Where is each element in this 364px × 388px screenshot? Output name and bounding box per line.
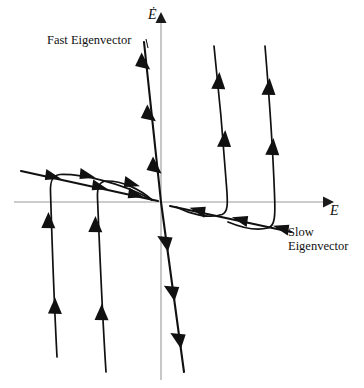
label-leader-lines xyxy=(146,39,148,48)
trajectory-left-2-arrow-1 xyxy=(88,216,102,233)
trajectory-left-1-arrow-1 xyxy=(41,212,55,229)
trajectory-left-2-path xyxy=(97,181,152,372)
trajectory-right-2-arrow-1 xyxy=(261,78,276,96)
y-axis-label: Ė xyxy=(148,7,157,23)
fast-label-leader xyxy=(146,39,148,48)
trajectory-right-1-arrow-1 xyxy=(211,72,226,90)
trajectory-left-2-arrow-2 xyxy=(94,304,108,321)
fast-upper-arrow-1 xyxy=(135,52,151,69)
trajectory-left-1-arrow-2 xyxy=(48,297,62,314)
slow-left-arrow-1 xyxy=(44,169,62,183)
axes-group xyxy=(14,12,334,380)
fast-lower-arrow-2 xyxy=(164,285,180,302)
fast-upper-arrow-3 xyxy=(146,156,162,173)
x-axis-label: E xyxy=(330,203,339,219)
slow-eigenvector-label-line2: Eigenvector xyxy=(288,239,348,253)
trajectory-right-1-path xyxy=(176,46,227,216)
slow-eigenvector-label-line1: Slow xyxy=(288,225,348,239)
trajectory-right-1-arrow-2 xyxy=(217,130,232,148)
fast-eigenvector-label: Fast Eigenvector xyxy=(47,33,131,47)
slow-eigenvector-label: Slow Eigenvector xyxy=(288,225,348,253)
fast-upper-arrow-2 xyxy=(141,104,157,121)
fast-lower-arrow-3 xyxy=(170,332,186,349)
trajectory-right-2-arrow-2 xyxy=(265,138,280,156)
slow-eigenvector-right-branch xyxy=(170,206,291,232)
trajectory-left-1-arrow-3 xyxy=(79,168,97,182)
phase-portrait-figure: Ė E Fast Eigenvector Slow Eigenvector xyxy=(0,0,364,388)
trajectory-right-1 xyxy=(176,46,232,216)
trajectory-left-2 xyxy=(88,176,152,372)
y-axis-arrowhead xyxy=(156,12,167,23)
phase-portrait-canvas xyxy=(0,0,364,388)
fast-lower-arrow-1 xyxy=(157,235,173,252)
